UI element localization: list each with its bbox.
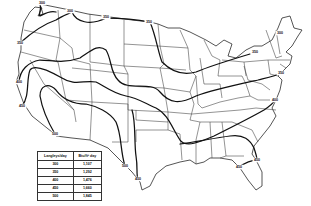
contour-label: 350 [145,20,154,25]
contour-label: 450 [134,177,143,182]
svg-text:400: 400 [16,80,22,84]
langleys-value: 300 [38,161,74,169]
contour-label: 300 [66,9,75,14]
contour-label: 300 [276,31,285,36]
contour-label: 450 [253,158,262,163]
langleys-value: 500 [38,193,74,201]
svg-text:400: 400 [272,98,278,102]
contour-350-main [150,22,250,73]
svg-text:350: 350 [17,41,23,45]
langleys-value: 350 [38,169,74,177]
table-row: 300 1,107 [38,161,102,169]
svg-text:300: 300 [67,9,73,13]
contour-label: 500 [51,132,60,137]
svg-text:450: 450 [135,177,141,181]
table-row: 450 1,660 [38,185,102,193]
svg-text:450: 450 [19,104,25,108]
svg-text:300: 300 [277,31,283,35]
svg-text:350: 350 [103,15,109,19]
contour-label: 350 [277,71,286,76]
contour-450-se [180,136,257,160]
contour-label: 300 [38,1,47,6]
table-row: 400 1,476 [38,177,102,185]
langleys-value: 450 [38,185,74,193]
svg-text:350: 350 [252,50,258,54]
table-row: 350 1,292 [38,169,102,177]
svg-text:500: 500 [52,132,58,136]
contour-label: 400 [15,80,24,85]
btu-value: 1,845 [73,193,101,201]
contour-400 [22,68,275,144]
svg-text:500: 500 [122,164,128,168]
svg-text:350: 350 [278,71,284,75]
svg-text:450: 450 [236,165,242,169]
header-btu: Btu/ft² day [73,152,101,161]
btu-value: 1,660 [73,185,101,193]
langleys-value: 400 [38,177,74,185]
conversion-table: Langleys/day Btu/ft² day 300 1,107 350 1… [37,151,102,201]
btu-value: 1,292 [73,169,101,177]
svg-text:300: 300 [39,1,45,5]
contour-label: 350 [251,50,260,55]
contour-label: 500 [121,164,130,169]
contour-300-north [20,12,72,43]
btu-value: 1,107 [73,161,101,169]
table-row: 500 1,845 [38,193,102,201]
contour-label: 450 [18,104,27,109]
contour-label: 450 [235,165,244,170]
contour-label: 350 [16,41,25,46]
svg-text:450: 450 [254,158,260,162]
svg-text:350: 350 [146,20,152,24]
contour-500 [132,110,138,179]
contour-label: 400 [271,98,280,103]
header-langleys: Langleys/day [38,152,74,161]
contour-label: 350 [102,15,111,20]
btu-value: 1,476 [73,177,101,185]
